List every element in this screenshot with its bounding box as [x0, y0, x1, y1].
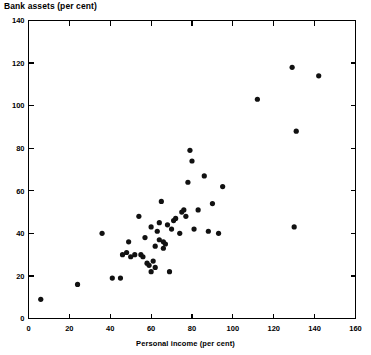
axis-ticks: 020406080100120140020406080100120140160	[12, 16, 362, 332]
scatter-chart-figure: Bank assets (per cent) 02040608010012014…	[0, 0, 371, 355]
data-point	[153, 265, 158, 270]
data-point	[173, 216, 178, 221]
data-point	[210, 201, 215, 206]
data-point	[216, 231, 221, 236]
data-point	[187, 148, 192, 153]
data-point	[185, 180, 190, 185]
y-tick-label: 60	[16, 187, 24, 196]
data-point	[153, 244, 158, 249]
data-point	[124, 250, 129, 255]
axis-frame	[29, 21, 356, 319]
x-tick-label: 60	[147, 324, 155, 333]
data-point	[157, 220, 162, 225]
y-tick-label: 140	[12, 16, 25, 25]
data-point	[75, 282, 80, 287]
data-point	[165, 222, 170, 227]
x-tick-label: 160	[349, 324, 362, 333]
data-point	[136, 214, 141, 219]
x-tick-label: 0	[26, 324, 30, 333]
x-tick-label: 140	[308, 324, 321, 333]
data-point	[183, 214, 188, 219]
y-tick-label: 20	[16, 272, 24, 281]
x-tick-label: 40	[106, 324, 114, 333]
x-tick-label: 20	[65, 324, 73, 333]
data-point	[294, 129, 299, 134]
data-point	[220, 184, 225, 189]
plot-area: 020406080100120140020406080100120140160	[0, 0, 371, 355]
data-point	[99, 231, 104, 236]
data-point	[316, 73, 321, 78]
x-tick-label: 80	[188, 324, 196, 333]
data-point	[159, 199, 164, 204]
data-point	[151, 258, 156, 263]
data-point	[196, 207, 201, 212]
data-point	[292, 224, 297, 229]
y-tick-label: 40	[16, 229, 24, 238]
data-point	[110, 275, 115, 280]
data-point	[206, 229, 211, 234]
data-point	[202, 173, 207, 178]
x-tick-label: 120	[267, 324, 280, 333]
axes	[29, 21, 356, 319]
x-axis-label: Personal income (per cent)	[0, 339, 371, 348]
data-point	[149, 269, 154, 274]
data-point	[140, 254, 145, 259]
data-point	[290, 65, 295, 70]
data-point	[146, 263, 151, 268]
x-tick-label: 100	[227, 324, 240, 333]
data-point	[118, 275, 123, 280]
data-point	[149, 224, 154, 229]
data-point	[167, 269, 172, 274]
data-point	[155, 229, 160, 234]
y-tick-label: 100	[12, 101, 25, 110]
data-point	[181, 207, 186, 212]
data-point	[132, 252, 137, 257]
data-point	[191, 227, 196, 232]
data-point	[169, 227, 174, 232]
data-point	[163, 241, 168, 246]
data-point	[126, 239, 131, 244]
data-point	[255, 97, 260, 102]
data-points	[38, 65, 321, 302]
data-point	[142, 235, 147, 240]
y-tick-label: 0	[20, 314, 24, 323]
y-tick-label: 120	[12, 59, 25, 68]
y-tick-label: 80	[16, 144, 24, 153]
data-point	[189, 158, 194, 163]
data-point	[38, 297, 43, 302]
data-point	[177, 231, 182, 236]
